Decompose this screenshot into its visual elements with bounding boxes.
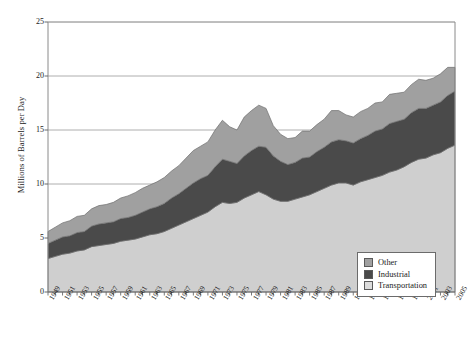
y-axis-tick-labels: 0510152025: [20, 0, 44, 351]
legend-label: Other: [378, 257, 397, 269]
y-tick-label: 20: [22, 72, 44, 80]
legend-item: Transportation: [364, 280, 427, 292]
legend-label: Industrial: [378, 269, 410, 281]
y-tick-label: 10: [22, 180, 44, 188]
legend-swatch-icon: [364, 270, 373, 279]
stacked-area-chart: Millions of Barrels per Day 0510152025 1…: [0, 0, 474, 351]
y-tick-label: 25: [22, 18, 44, 26]
legend-label: Transportation: [378, 280, 427, 292]
y-tick-label: 0: [22, 288, 44, 296]
legend-item: Other: [364, 257, 427, 269]
legend-swatch-icon: [364, 281, 373, 290]
legend-item: Industrial: [364, 269, 427, 281]
legend-swatch-icon: [364, 258, 373, 267]
chart-legend: OtherIndustrialTransportation: [357, 252, 436, 297]
y-tick-label: 5: [22, 234, 44, 242]
y-tick-label: 15: [22, 126, 44, 134]
